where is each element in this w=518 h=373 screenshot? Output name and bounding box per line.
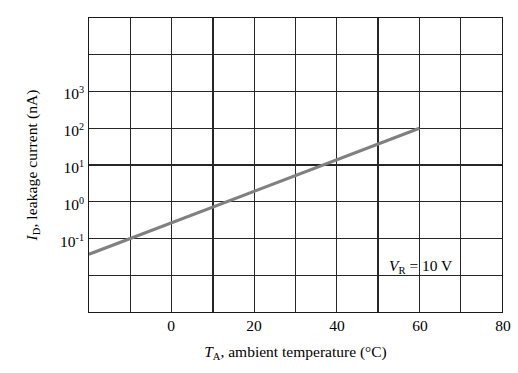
y-tick-label: 100: [38, 196, 84, 212]
x-tick-label: 60: [390, 318, 450, 334]
x-tick-label: 0: [141, 318, 201, 334]
annotation-subscript: R: [398, 265, 405, 276]
x-axis-title: TA, ambient temperature (°C): [88, 344, 503, 362]
y-tick-label: 101: [38, 159, 84, 175]
y-tick-label: 102: [38, 122, 84, 138]
y-tick-label: 10-1: [38, 233, 84, 249]
leakage-current-vs-temperature-chart: ID, leakage current (nA) 10-1 100 101 10…: [0, 0, 518, 373]
plot-area: VR = 10 V: [88, 17, 503, 313]
y-tick-label: 103: [38, 85, 84, 101]
y-axis-tick-labels: 10-1 100 101 102 103: [36, 17, 84, 313]
annotation-rest: = 10 V: [406, 257, 453, 274]
x-tick-label: 80: [473, 318, 518, 334]
x-axis-tick-labels: 0 20 40 60 80: [88, 318, 503, 340]
annotation-reverse-voltage: VR = 10 V: [389, 258, 452, 276]
x-tick-label: 20: [224, 318, 284, 334]
x-tick-label: 40: [307, 318, 367, 334]
x-axis-symbol: T: [204, 343, 213, 360]
x-axis-title-rest: , ambient temperature (°C): [220, 343, 386, 360]
